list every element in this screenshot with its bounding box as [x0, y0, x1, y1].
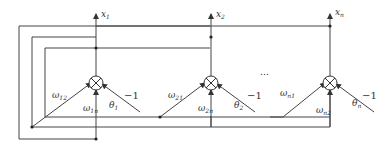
bias-label-1: −1: [124, 90, 139, 101]
threshold-label-theta2: θ2: [234, 100, 243, 111]
bias-label-2: −1: [247, 90, 262, 101]
weight-label-wn1: ωn1: [280, 88, 295, 99]
outputs: [96, 14, 330, 76]
threshold-label-thetan: θn: [352, 98, 361, 109]
weight-label-w21: ω21: [168, 90, 183, 101]
ellipsis: …: [260, 67, 269, 77]
junction-dots: [30, 24, 331, 140]
bias-label-n: −1: [362, 90, 377, 101]
output-label-xn: xn: [335, 7, 344, 18]
weight-label-wn2: ωn2: [316, 105, 331, 116]
weight-label-w12: ω12: [52, 90, 67, 101]
node-2: [204, 76, 218, 90]
output-label-x2: x2: [216, 9, 225, 20]
hopfield-network-diagram: x1 x2 xn ω12 ω1n ω21 ω2n ωn1 ωn2 θ1 θ2 θ…: [0, 0, 388, 150]
output-label-x1: x1: [101, 9, 110, 20]
feedback-wires: [19, 26, 330, 139]
node-1: [89, 76, 103, 90]
threshold-label-theta1: θ1: [109, 100, 118, 111]
node-n: [323, 76, 337, 90]
